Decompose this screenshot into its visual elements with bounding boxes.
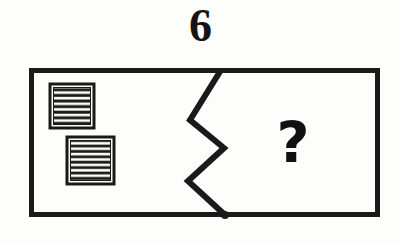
zigzag-end-node <box>221 211 229 219</box>
striped-square-lower <box>67 137 114 184</box>
puzzle-page: 6 ? <box>0 0 401 245</box>
question-mark: ? <box>264 112 322 174</box>
striped-square-upper <box>50 84 94 128</box>
figure-diagram <box>0 0 401 245</box>
